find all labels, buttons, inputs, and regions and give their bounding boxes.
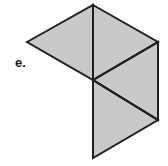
face-upper-left-triangle <box>27 5 93 80</box>
option-label-e: e. <box>15 56 26 70</box>
geometry-figure <box>0 0 168 166</box>
figure-container: e. <box>0 0 168 166</box>
